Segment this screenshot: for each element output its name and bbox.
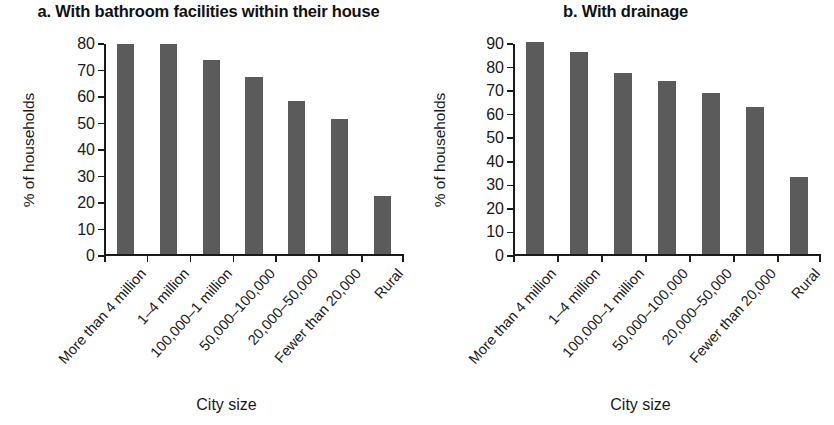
panel-a-y-axis-title-text: % of households: [20, 93, 38, 208]
bar: [658, 81, 676, 254]
panel-a-x-tick: [104, 256, 106, 262]
panel-a-y-tick: [98, 123, 104, 125]
panel-b-y-axis-line: [513, 44, 515, 256]
panel-b-y-tick: [507, 232, 513, 234]
panel-a-x-axis-title: City size: [0, 396, 417, 414]
bar: [790, 177, 808, 255]
panel-b-y-tick-label: 70: [486, 83, 504, 99]
panel-a-y-tick-label: 40: [77, 142, 95, 158]
bar: [374, 196, 391, 254]
figure-two-panel-bar-charts: a. With bathroom facilities within their…: [0, 0, 834, 425]
panel-a-y-tick: [98, 229, 104, 231]
panel-b-y-tick-label: 80: [486, 60, 504, 76]
panel-b-y-tick-label: 0: [495, 248, 504, 264]
panel-a-x-tick: [402, 256, 404, 262]
bar: [203, 60, 220, 255]
panel-a-y-tick-label: 80: [77, 36, 95, 52]
chart-panel-a: a. With bathroom facilities within their…: [0, 0, 417, 425]
panel-b-x-axis-line: [513, 254, 821, 256]
panel-a-y-tick-label: 0: [86, 248, 95, 264]
panel-b-x-tick: [557, 256, 559, 262]
panel-b-y-tick: [507, 161, 513, 163]
bar: [746, 107, 764, 254]
panel-a-x-tick: [233, 256, 235, 262]
panel-b-x-tick: [819, 256, 821, 262]
panel-b-y-tick-label: 10: [486, 224, 504, 240]
bar: [245, 77, 262, 255]
panel-b-x-axis-title: City size: [417, 396, 834, 414]
panel-b-y-tick: [507, 114, 513, 116]
panel-a-x-tick: [361, 256, 363, 262]
bar: [614, 73, 632, 254]
panel-a-y-tick-label: 10: [77, 222, 95, 238]
panel-b-y-tick: [507, 43, 513, 45]
panel-a-x-tick: [275, 256, 277, 262]
bar: [702, 93, 720, 254]
panel-a-y-tick: [98, 70, 104, 72]
panel-b-y-tick: [507, 208, 513, 210]
panel-a-y-tick: [98, 96, 104, 98]
panel-a-y-tick-label: 50: [77, 116, 95, 132]
panel-a-y-tick-label: 30: [77, 169, 95, 185]
panel-a-x-tick: [190, 256, 192, 262]
panel-b-x-tick: [777, 256, 779, 262]
panel-a-y-tick-label: 70: [77, 63, 95, 79]
panel-b-y-tick: [507, 67, 513, 69]
bar: [160, 44, 177, 255]
panel-b-y-tick: [507, 185, 513, 187]
panel-a-title: a. With bathroom facilities within their…: [0, 2, 417, 21]
bar: [331, 119, 348, 254]
panel-a-x-axis-line: [104, 254, 404, 256]
panel-b-x-tick: [601, 256, 603, 262]
panel-a-y-tick: [98, 149, 104, 151]
panel-a-y-tick: [98, 43, 104, 45]
bar: [526, 42, 544, 254]
panel-b-y-axis-title: % of households: [429, 44, 451, 256]
panel-b-y-tick-label: 40: [486, 154, 504, 170]
panel-b-y-tick: [507, 90, 513, 92]
panel-b-plot-area: 0102030405060708090More than 4 million1–…: [513, 44, 821, 256]
panel-b-y-tick-label: 90: [486, 36, 504, 52]
bar: [288, 101, 305, 255]
panel-a-y-tick-label: 60: [77, 89, 95, 105]
panel-a-y-axis-title: % of households: [18, 44, 40, 256]
panel-a-plot-area: 01020304050607080More than 4 million1–4 …: [104, 44, 404, 256]
panel-a-y-tick: [98, 202, 104, 204]
panel-a-y-axis-line: [104, 44, 106, 256]
bar: [570, 52, 588, 255]
bar: [117, 44, 134, 255]
panel-b-x-tick: [733, 256, 735, 262]
panel-a-y-tick: [98, 176, 104, 178]
panel-b-y-tick-label: 60: [486, 107, 504, 123]
panel-b-y-tick-label: 30: [486, 177, 504, 193]
panel-b-x-tick: [645, 256, 647, 262]
panel-b-y-tick-label: 20: [486, 201, 504, 217]
panel-b-x-tick: [689, 256, 691, 262]
panel-a-x-tick: [147, 256, 149, 262]
panel-b-y-tick: [507, 137, 513, 139]
panel-b-title: b. With drainage: [417, 2, 834, 21]
chart-panel-b: b. With drainage % of households 0102030…: [417, 0, 834, 425]
panel-a-x-tick: [318, 256, 320, 262]
panel-a-y-tick-label: 20: [77, 195, 95, 211]
panel-b-x-tick: [513, 256, 515, 262]
panel-b-y-axis-title-text: % of households: [431, 93, 449, 208]
panel-b-y-tick-label: 50: [486, 130, 504, 146]
